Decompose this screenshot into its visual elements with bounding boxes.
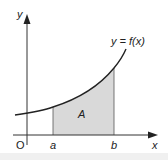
y-axis-arrow-icon [24, 14, 31, 24]
area-under-curve-diagram: y y = f(x) A O a b x [0, 0, 168, 160]
x-axis-label: x [151, 139, 158, 151]
y-axis-label: y [16, 8, 24, 20]
x-axis-arrow-icon [148, 132, 158, 139]
upper-bound-label: b [111, 139, 117, 151]
region-label: A [77, 108, 85, 120]
bottom-border-strip [0, 153, 168, 160]
diagram-frame: y y = f(x) A O a b x [0, 0, 168, 160]
origin-label: O [16, 139, 25, 151]
lower-bound-label: a [50, 139, 56, 151]
curve-label: y = f(x) [110, 35, 145, 47]
